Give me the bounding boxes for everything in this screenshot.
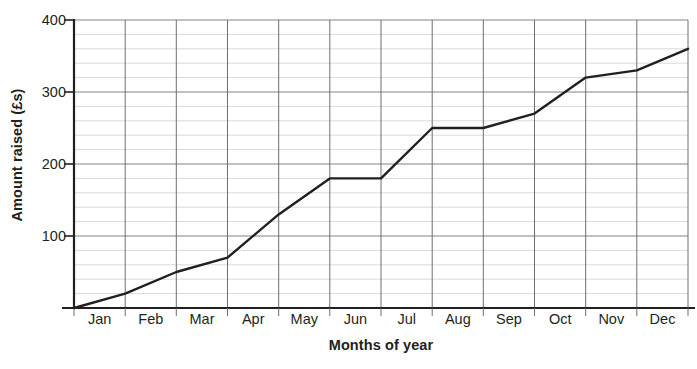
x-tick-label-dec: Dec [637, 312, 689, 327]
y-tick-label: 200 [28, 157, 66, 172]
y-tick-label: 100 [28, 229, 66, 244]
x-tick-label-oct: Oct [534, 312, 586, 327]
x-tick-label-mar: Mar [176, 312, 228, 327]
line-chart: 100 200 300 400 Jan Feb Mar Apr May Jun … [0, 0, 697, 369]
y-axis-title: Amount raised (£s) [4, 0, 30, 310]
x-tick-label-jan: Jan [74, 312, 126, 327]
x-tick-label-jun: Jun [330, 312, 382, 327]
y-axis-tick-labels: 100 200 300 400 [26, 0, 66, 369]
x-tick-label-apr: Apr [227, 312, 279, 327]
y-tick-label: 300 [28, 85, 66, 100]
x-axis-title: Months of year [74, 337, 688, 353]
x-tick-label-feb: Feb [125, 312, 177, 327]
x-tick-label-nov: Nov [585, 312, 637, 327]
x-tick-label-sep: Sep [483, 312, 535, 327]
y-tick-label: 400 [28, 13, 66, 28]
x-tick-label-jul: Jul [381, 312, 433, 327]
x-tick-label-aug: Aug [432, 312, 484, 327]
x-tick-label-may: May [278, 312, 330, 327]
